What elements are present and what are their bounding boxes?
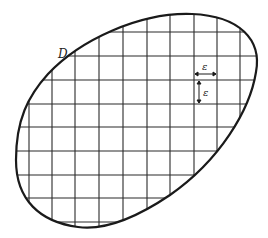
vertical-epsilon-label: ε [203,87,208,98]
grid-lines [0,0,268,238]
vertical-epsilon-marker [197,81,201,103]
horizontal-epsilon-label: ε [202,61,207,72]
region-grid-diagram: D ε ε [0,0,268,238]
horizontal-epsilon-marker [195,72,216,76]
region-label: D [57,47,68,61]
